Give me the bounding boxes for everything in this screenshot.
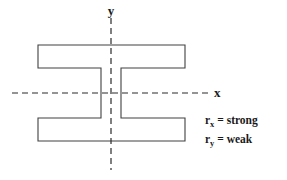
radius-of-gyration-notes: rx = strong ry = weak: [205, 114, 258, 148]
note-line-rx: rx = strong: [205, 114, 258, 129]
note-rx-value: strong: [227, 114, 258, 127]
note-line-ry: ry = weak: [205, 133, 253, 148]
figure-canvas: y x rx = strong ry = weak: [0, 0, 287, 180]
i-beam-axes-figure: y x rx = strong ry = weak: [0, 0, 287, 180]
note-ry-value: weak: [227, 133, 253, 145]
y-axis-label: y: [108, 3, 115, 18]
x-axis-label: x: [214, 85, 221, 100]
